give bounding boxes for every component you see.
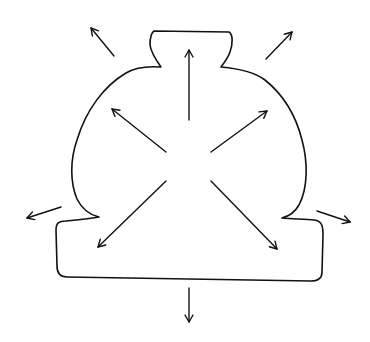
arrow-down-left-icon — [98, 181, 166, 247]
inner-arrows — [98, 50, 277, 249]
outer-arrow-up-left-icon — [91, 28, 114, 56]
arrow-up-right-icon — [211, 111, 267, 152]
arrow-up-left-icon — [112, 109, 166, 152]
outer-arrow-right-icon — [317, 211, 350, 222]
bell-diagram — [0, 0, 370, 342]
outer-arrow-up-right-icon — [266, 32, 292, 59]
arrow-down-right-icon — [211, 181, 277, 249]
outer-arrow-left-icon — [27, 207, 61, 218]
